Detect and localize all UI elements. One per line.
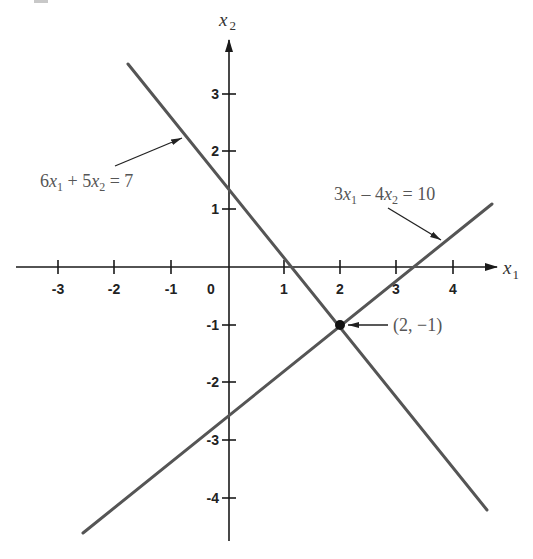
y-tick-label: -2 bbox=[207, 374, 220, 390]
y-tick-label: -1 bbox=[207, 317, 220, 333]
x-tick-label: -1 bbox=[165, 281, 178, 297]
x-tick-label: -2 bbox=[108, 281, 121, 297]
intersection-dot-icon bbox=[335, 320, 345, 330]
cropped-caption-fragment bbox=[34, 0, 48, 3]
line-3x1-minus-4x2-eq-10 bbox=[83, 204, 492, 533]
y-tick-label: 2 bbox=[211, 143, 219, 159]
y-axis: 3 2 1 -1 -2 -3 -4 x2 bbox=[207, 9, 236, 541]
x-tick-label: 0 bbox=[207, 281, 215, 297]
svg-text:6x1 + 5x2 = 7: 6x1 + 5x2 = 7 bbox=[40, 171, 133, 194]
y-tick-label: 1 bbox=[211, 201, 219, 217]
x-tick-label: 4 bbox=[449, 281, 457, 297]
line-6x1-plus-5x2-eq-7 bbox=[128, 64, 487, 510]
svg-text:3x1 – 4x2 = 10: 3x1 – 4x2 = 10 bbox=[334, 184, 435, 207]
x-tick-label: 2 bbox=[336, 281, 344, 297]
y-tick-label: -3 bbox=[207, 432, 220, 448]
y-tick-label: 3 bbox=[211, 86, 219, 102]
x-axis-label: x1 bbox=[502, 257, 519, 282]
pointer-arrow-icon bbox=[115, 138, 182, 166]
equation-label-2: 3x1 – 4x2 = 10 bbox=[334, 184, 441, 240]
x-tick-label: -3 bbox=[52, 281, 65, 297]
linear-equations-graph: -3 -2 -1 0 1 2 3 4 x1 3 2 1 -1 -2 -3 -4 … bbox=[0, 0, 533, 559]
y-axis-label: x2 bbox=[218, 9, 236, 33]
intersection-label: (2, −1) bbox=[393, 315, 442, 336]
equation-label-1: 6x1 + 5x2 = 7 bbox=[40, 138, 182, 194]
pointer-arrow-icon bbox=[388, 208, 441, 240]
x-axis: -3 -2 -1 0 1 2 3 4 x1 bbox=[16, 257, 519, 297]
y-tick-label: -4 bbox=[207, 490, 220, 506]
x-tick-label: 1 bbox=[280, 281, 288, 297]
